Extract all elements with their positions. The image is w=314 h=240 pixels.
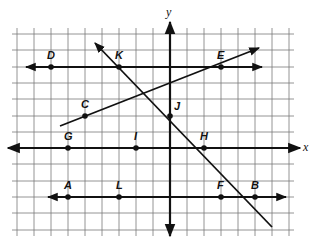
point-J [167, 113, 173, 119]
point-B [252, 194, 258, 200]
point-C [82, 113, 88, 119]
y-axis-label: y [165, 5, 172, 19]
label-J: J [174, 100, 181, 112]
label-F: F [217, 179, 224, 191]
x-axis-label: x [302, 140, 309, 154]
point-H [201, 145, 207, 151]
point-D [48, 64, 54, 70]
point-K [116, 64, 122, 70]
label-H: H [200, 130, 209, 142]
point-E [218, 64, 224, 70]
label-E: E [217, 49, 225, 61]
label-D: D [47, 49, 55, 61]
label-G: G [64, 130, 73, 142]
label-K: K [115, 49, 124, 61]
point-F [218, 194, 224, 200]
label-A: A [63, 179, 72, 191]
point-I [133, 145, 139, 151]
label-C: C [81, 98, 90, 110]
coordinate-graph: x y D K E C J G I H A L F B [0, 0, 314, 240]
point-G [65, 145, 71, 151]
point-A [65, 194, 71, 200]
line-KB [95, 43, 272, 227]
point-L [116, 194, 122, 200]
label-L: L [116, 179, 123, 191]
line-CE [60, 48, 259, 126]
label-B: B [251, 179, 259, 191]
